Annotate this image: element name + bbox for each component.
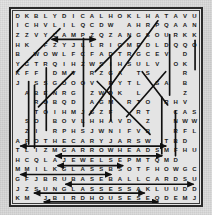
word-search-puzzle: DKBLYDICALHOKLHATAVUICHVLILQCDWAHRPQAANZ… bbox=[0, 0, 212, 215]
grid-cell: I bbox=[13, 21, 22, 31]
grid-cell: W bbox=[143, 136, 152, 146]
grid-cell: R bbox=[78, 145, 87, 155]
grid-cell: L bbox=[41, 165, 50, 175]
grid-cell: K bbox=[143, 184, 152, 194]
grid-cell: U bbox=[162, 30, 171, 40]
grid-cell: H bbox=[180, 145, 189, 155]
puzzle-grid-frame: DKBLYDICALHOKLHATAVUICHVLILQCDWAHRPQAANZ… bbox=[9, 7, 203, 207]
grid-cell: W bbox=[97, 126, 106, 136]
grid-cell: V bbox=[69, 117, 78, 127]
grid-cell: A bbox=[115, 30, 124, 40]
grid-cell: K bbox=[13, 193, 22, 203]
grid-cell: A bbox=[153, 11, 162, 21]
grid-cell: W bbox=[190, 117, 199, 127]
grid-cell bbox=[190, 136, 199, 146]
grid-cell: L bbox=[190, 126, 199, 136]
grid-cell: M bbox=[125, 40, 134, 50]
grid-cell: C bbox=[171, 107, 180, 117]
grid-cell: F bbox=[143, 165, 152, 175]
grid-cell: H bbox=[106, 11, 115, 21]
grid-cell: I bbox=[106, 59, 115, 69]
grid-cell: W bbox=[97, 88, 106, 98]
grid-cell: A bbox=[162, 78, 171, 88]
grid-cell: R bbox=[171, 126, 180, 136]
grid-cell: Y bbox=[60, 40, 69, 50]
grid-cell: K bbox=[115, 88, 124, 98]
grid-cell: Z bbox=[87, 88, 96, 98]
grid-cell bbox=[13, 107, 22, 117]
grid-cell: J bbox=[87, 126, 96, 136]
grid-cell: K bbox=[180, 59, 189, 69]
grid-cell: D bbox=[180, 49, 189, 59]
grid-cell: Z bbox=[13, 30, 22, 40]
grid-cell: Z bbox=[50, 40, 59, 50]
grid-cell: H bbox=[115, 59, 124, 69]
grid-cell: O bbox=[32, 136, 41, 146]
grid-cell: S bbox=[78, 126, 87, 136]
grid-cell: Q bbox=[153, 155, 162, 165]
grid-cell bbox=[115, 97, 124, 107]
grid-cell: J bbox=[69, 40, 78, 50]
grid-cell: T bbox=[143, 155, 152, 165]
grid-cell: H bbox=[50, 136, 59, 146]
grid-cell: Y bbox=[97, 136, 106, 146]
grid-cell: J bbox=[60, 155, 69, 165]
grid-cell: O bbox=[41, 49, 50, 59]
puzzle-grid-inner: DKBLYDICALHOKLHATAVUICHVLILQCDWAHRPQAANZ… bbox=[12, 10, 200, 204]
grid-cell: A bbox=[87, 11, 96, 21]
grid-cell: Q bbox=[50, 59, 59, 69]
grid-cell: P bbox=[125, 155, 134, 165]
grid-cell: G bbox=[69, 88, 78, 98]
grid-cell: A bbox=[115, 69, 124, 79]
grid-cell: S bbox=[125, 59, 134, 69]
grid-cell: K bbox=[50, 165, 59, 175]
grid-cell: A bbox=[78, 184, 87, 194]
grid-cell: J bbox=[41, 193, 50, 203]
grid-cell: E bbox=[106, 184, 115, 194]
grid-cell: B bbox=[69, 174, 78, 184]
grid-cell: T bbox=[162, 136, 171, 146]
grid-cell: E bbox=[87, 155, 96, 165]
grid-cell: H bbox=[87, 193, 96, 203]
grid-cell: T bbox=[134, 165, 143, 175]
grid-cell: N bbox=[125, 30, 134, 40]
grid-cell bbox=[22, 78, 31, 88]
grid-cell: I bbox=[60, 59, 69, 69]
grid-cell: A bbox=[78, 165, 87, 175]
grid-cell: R bbox=[87, 136, 96, 146]
grid-cell: D bbox=[162, 40, 171, 50]
grid-cell: Y bbox=[115, 78, 124, 88]
grid-cell: N bbox=[50, 88, 59, 98]
grid-cell: S bbox=[97, 184, 106, 194]
grid-cell: J bbox=[106, 136, 115, 146]
grid-cell bbox=[190, 155, 199, 165]
grid-cell: P bbox=[153, 21, 162, 31]
grid-cell: P bbox=[22, 136, 31, 146]
grid-cell: T bbox=[32, 59, 41, 69]
grid-cell: B bbox=[106, 174, 115, 184]
grid-cell: N bbox=[171, 117, 180, 127]
grid-cell: I bbox=[50, 107, 59, 117]
grid-cell: F bbox=[180, 126, 189, 136]
grid-cell: R bbox=[162, 174, 171, 184]
grid-cell: R bbox=[50, 174, 59, 184]
grid-cell: K bbox=[180, 30, 189, 40]
grid-cell: V bbox=[153, 59, 162, 69]
grid-cell: G bbox=[97, 97, 106, 107]
grid-cell: Q bbox=[78, 21, 87, 31]
grid-cell: P bbox=[78, 30, 87, 40]
grid-cell bbox=[153, 88, 162, 98]
grid-cell: U bbox=[60, 174, 69, 184]
grid-cell bbox=[78, 97, 87, 107]
grid-cell: N bbox=[190, 21, 199, 31]
grid-cell: F bbox=[171, 145, 180, 155]
grid-cell: M bbox=[22, 165, 31, 175]
grid-cell: Z bbox=[97, 69, 106, 79]
grid-cell: F bbox=[106, 107, 115, 117]
grid-cell: O bbox=[190, 40, 199, 50]
grid-cell: R bbox=[125, 49, 134, 59]
grid-cell: I bbox=[32, 165, 41, 175]
grid-cell: O bbox=[143, 97, 152, 107]
grid-cell: V bbox=[41, 21, 50, 31]
grid-cell: O bbox=[171, 59, 180, 69]
